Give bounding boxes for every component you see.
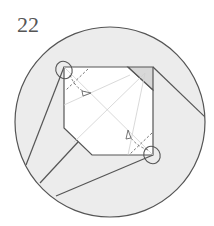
origami-diagram: [0, 0, 214, 226]
